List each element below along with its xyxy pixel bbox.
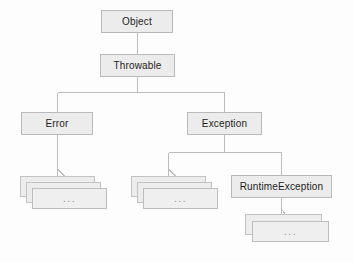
ellipsis-label: ... — [174, 194, 187, 204]
ellipsis-label: ... — [63, 194, 76, 204]
class-node-exception[interactable]: Exception — [187, 112, 262, 135]
class-node-runtimeexception[interactable]: RuntimeException — [231, 175, 332, 198]
subclass-stack-exception[interactable]: ... — [131, 176, 218, 209]
ellipsis-label: ... — [284, 227, 297, 237]
class-node-label: Object — [122, 17, 152, 27]
subclass-stack-runtimeexception[interactable]: ... — [245, 214, 329, 242]
class-node-label: Exception — [202, 119, 247, 129]
class-node-error[interactable]: Error — [21, 112, 93, 135]
class-hierarchy-diagram: Object Throwable Error Exception Runtime… — [0, 0, 354, 262]
class-node-throwable[interactable]: Throwable — [100, 54, 175, 77]
subclass-card-front: ... — [252, 221, 329, 242]
subclass-stack-error[interactable]: ... — [20, 176, 107, 209]
class-node-label: Throwable — [113, 61, 161, 71]
class-node-label: Error — [46, 119, 69, 129]
class-node-object[interactable]: Object — [101, 10, 173, 33]
class-node-label: RuntimeException — [240, 182, 324, 192]
subclass-card-front: ... — [32, 188, 107, 209]
subclass-card-front: ... — [143, 188, 218, 209]
